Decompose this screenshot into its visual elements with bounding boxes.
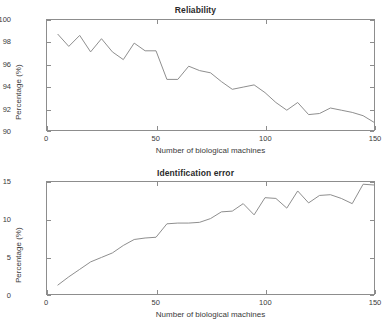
y-tick-label-90: 90	[3, 127, 11, 136]
x-tick-label-100: 100	[259, 134, 272, 143]
chart-title-identification-error: Identification error	[0, 168, 391, 178]
y-axis-label-identification-error: Percentage (%)	[14, 227, 23, 283]
x-tick-label-50: 50	[152, 134, 160, 143]
y-axis-label-reliability: Percentage (%)	[14, 64, 23, 120]
y-tick-label-94: 94	[3, 82, 11, 91]
tick-x-150-bottom	[375, 290, 376, 294]
y-tick-label-15: 15	[3, 177, 11, 186]
data-line-reliability	[47, 20, 374, 130]
y-tick-label-5: 5	[7, 253, 11, 262]
y-tick-label-98: 98	[3, 37, 11, 46]
y-tick-label-10: 10	[3, 215, 11, 224]
data-line-identification-error	[47, 182, 374, 294]
chart-panel-identification-error: Identification error Percentage (%) 15 1…	[0, 163, 391, 326]
x-tick-label-50-bottom: 50	[152, 298, 160, 307]
tick-x-150	[375, 126, 376, 130]
x-axis-label-reliability: Number of biological machines	[46, 146, 375, 155]
x-tick-label-100-bottom: 100	[259, 298, 272, 307]
x-tick-label-150: 150	[369, 134, 382, 143]
chart-title-reliability: Reliability	[0, 5, 391, 15]
plot-area-identification-error	[46, 181, 375, 295]
chart-panel-reliability: Reliability Percentage (%) 100 98 96 94 …	[0, 0, 391, 163]
plot-area-reliability	[46, 19, 375, 131]
y-tick-label-96: 96	[3, 59, 11, 68]
y-tick-label-100: 100	[0, 15, 11, 24]
x-tick-label-0-bottom: 0	[44, 298, 48, 307]
y-tick-label-92: 92	[3, 104, 11, 113]
x-tick-label-0: 0	[44, 134, 48, 143]
x-tick-label-150-bottom: 150	[369, 298, 382, 307]
tick-y-0	[47, 295, 51, 296]
tick-y-right-90	[370, 131, 374, 132]
y-tick-label-0: 0	[7, 291, 11, 300]
tick-y-right-0	[370, 295, 374, 296]
x-axis-label-identification-error: Number of biological machines	[46, 310, 375, 319]
tick-y-90	[47, 131, 51, 132]
figure-canvas: Reliability Percentage (%) 100 98 96 94 …	[0, 0, 391, 326]
